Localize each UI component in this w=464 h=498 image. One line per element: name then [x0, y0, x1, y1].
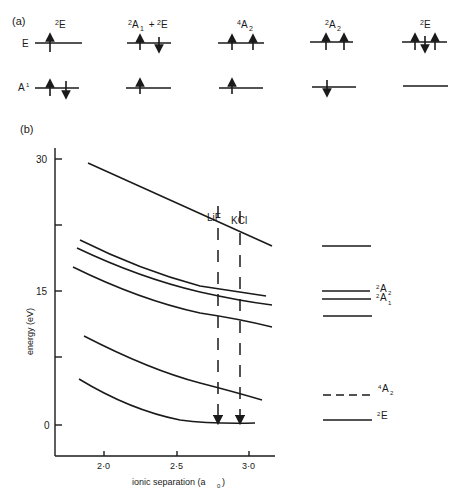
y-tick-0: 0: [44, 420, 50, 431]
level-label-e: E: [22, 38, 29, 49]
svg-text:A: A: [132, 19, 139, 30]
svg-text:A: A: [329, 19, 336, 30]
state-term-4: 2 A 2: [325, 19, 341, 32]
level-label-4a2: 4 A 2: [378, 383, 394, 396]
x-tick-2-5: 2·5: [170, 461, 183, 471]
curve-5: [84, 336, 262, 400]
panel-b-label: (b): [20, 123, 33, 135]
lif-label: LiF: [207, 212, 221, 223]
energy-curves: [73, 163, 272, 423]
axes: [55, 148, 275, 456]
curve-4: [73, 267, 272, 327]
curve-2: [80, 240, 266, 296]
svg-text:2: 2: [388, 290, 392, 296]
svg-text:A: A: [380, 292, 387, 303]
svg-text:2: 2: [249, 25, 253, 32]
level-label-a1: A: [18, 82, 25, 93]
y-tick-15: 15: [36, 286, 48, 297]
svg-text:1: 1: [388, 300, 392, 306]
curve-3: [77, 248, 272, 305]
svg-text:ionic separation (a: ionic separation (a: [132, 477, 206, 487]
svg-text:E: E: [59, 19, 66, 30]
state-term-2: 2 A 1 + 2 E: [128, 19, 168, 32]
x-tick-3-0: 3·0: [242, 461, 255, 471]
figure: (a) 2 E 2 A 1 + 2 E 4 A 2 2 A 2 2 E E A …: [0, 0, 464, 498]
orbital-diagrams: [35, 36, 448, 96]
svg-text:+: +: [146, 19, 157, 30]
curve-6: [79, 379, 255, 423]
level-label-2e: 2 E: [377, 410, 388, 421]
state-term-1: 2 E: [55, 19, 66, 30]
svg-text:0: 0: [217, 483, 221, 489]
x-tick-2-0: 2·0: [97, 461, 110, 471]
kcl-label: KCl: [231, 215, 247, 226]
state-term-3: 4 A 2: [237, 19, 253, 32]
level-label-a1-sup: 1: [26, 82, 30, 88]
svg-text:2: 2: [390, 390, 394, 396]
panel-a-label: (a): [12, 15, 25, 27]
svg-text:E: E: [381, 410, 388, 421]
curve-1: [88, 163, 272, 246]
svg-text:2: 2: [337, 25, 341, 32]
svg-text:): ): [222, 477, 225, 487]
svg-text:1: 1: [140, 25, 144, 32]
svg-text:E: E: [424, 19, 431, 30]
x-axis-label: ionic separation (a 0 ): [132, 477, 225, 489]
free-ion-levels: [322, 246, 372, 420]
svg-text:A: A: [241, 19, 248, 30]
y-tick-30: 30: [36, 154, 48, 165]
state-term-5: 2 E: [420, 19, 431, 30]
svg-text:E: E: [161, 19, 168, 30]
svg-text:A: A: [382, 383, 389, 394]
y-axis-label: energy (eV): [25, 308, 35, 355]
